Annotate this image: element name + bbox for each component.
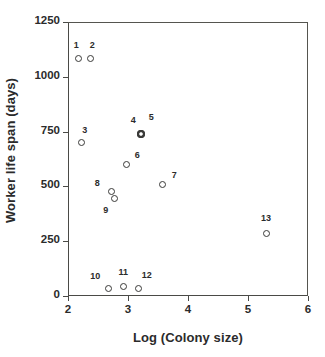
data-point-label: 10 [90,271,100,281]
y-axis-tick [63,241,68,242]
x-axis-tick [128,296,129,301]
data-point-marker [263,230,270,237]
x-axis-tick-label: 5 [233,303,263,315]
data-point-label: 13 [261,213,271,223]
data-point-label: 11 [118,267,128,277]
data-point-label: 7 [172,170,177,180]
data-point-marker [123,161,130,168]
x-axis-tick-label: 2 [53,303,83,315]
x-axis-tick [308,296,309,301]
y-axis-tick-label: 0 [14,288,60,300]
data-point-label: 6 [135,150,140,160]
data-point-marker [75,55,82,62]
x-axis-tick [68,296,69,301]
plot-right-spine [307,22,308,296]
y-axis-tick-label: 250 [14,233,60,245]
y-axis-tick [63,186,68,187]
data-point-marker [120,283,127,290]
plot-top-spine [68,22,308,23]
data-point-marker [135,285,142,292]
data-point-label: 9 [103,205,108,215]
y-axis-tick [63,132,68,133]
data-point-marker [105,285,112,292]
y-axis-tick-label: 500 [14,178,60,190]
x-axis-tick-label: 6 [293,303,323,315]
y-axis-tick-label: 1250 [14,14,60,26]
y-axis-tick [63,77,68,78]
plot-area [68,22,308,296]
x-axis-tick-label: 4 [173,303,203,315]
data-point-label: 8 [95,178,100,188]
x-axis-title: Log (Colony size) [68,330,308,345]
y-axis-tick-label: 750 [14,124,60,136]
y-axis-tick-label: 1000 [14,69,60,81]
y-axis-tick [63,22,68,23]
x-axis-tick [188,296,189,301]
data-point-label: 4 [131,115,136,125]
y-axis-title-text: Worker life span (days) [4,77,19,222]
data-point-label: 5 [149,112,154,122]
data-point-marker [87,55,94,62]
x-axis-tick [248,296,249,301]
data-point-label: 1 [74,40,79,50]
x-axis-tick-label: 3 [113,303,143,315]
data-point-label: 12 [142,270,152,280]
data-point-label: 2 [90,40,95,50]
data-point-label: 3 [82,125,87,135]
scatter-plot-figure: Worker life span (days) 0250500750100012… [0,0,325,357]
y-axis-title: Worker life span (days) [0,0,22,300]
